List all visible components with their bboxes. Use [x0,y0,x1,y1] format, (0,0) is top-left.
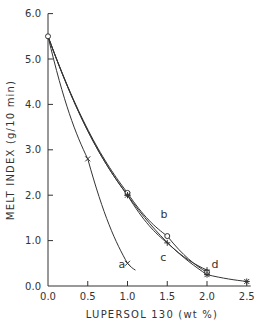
y-tick-label: 6.0 [25,8,41,19]
curve-labels: abcd [119,208,219,271]
curve-d [48,36,247,281]
curve-label-d: d [211,258,218,271]
curve-label-c: c [160,251,166,264]
x-axis-label: LUPERSOL 130 (wt %) [86,309,218,320]
x-tick-label: 2.5 [239,291,255,302]
marker-* [204,272,210,278]
curves [48,36,247,281]
markers [46,34,250,285]
y-axis-label: MELT INDEX (g/10 min) [5,80,16,220]
y-tick-label: 2.0 [25,190,41,201]
melt-index-chart: 0.01.02.03.04.05.06.00.00.51.01.52.02.5 … [0,0,266,328]
x-tick-label: 0.0 [40,291,56,302]
y-tick-label: 5.0 [25,54,41,65]
x-tick-label: 2.0 [199,291,215,302]
y-tick-label: 0.0 [25,281,41,292]
marker-x [125,261,130,266]
curve-b [48,36,207,272]
curve-c [48,36,207,270]
x-tick-label: 1.0 [120,291,136,302]
x-tick-label: 1.5 [159,291,175,302]
axes [48,14,251,286]
marker-* [125,192,131,198]
y-tick-label: 1.0 [25,235,41,246]
y-tick-label: 4.0 [25,99,41,110]
y-tick-label: 3.0 [25,144,41,155]
curve-label-b: b [161,208,168,221]
marker-o [165,234,170,239]
marker-o [46,34,51,39]
tick-labels: 0.01.02.03.04.05.06.00.00.51.01.52.02.5 [25,8,255,302]
x-tick-label: 0.5 [80,291,96,302]
curve-label-a: a [119,258,126,271]
marker-* [244,278,250,284]
